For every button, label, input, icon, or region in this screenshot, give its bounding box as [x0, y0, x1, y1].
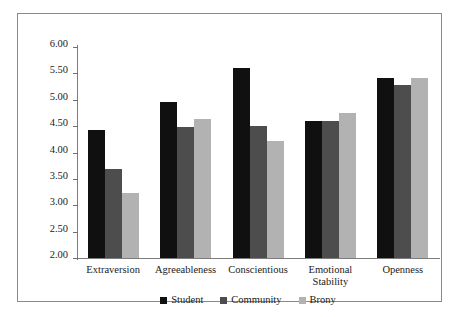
chart-legend: StudentCommunityBrony — [18, 295, 460, 306]
x-axis-category-label: Openness — [367, 264, 439, 276]
bar-brony — [339, 113, 356, 258]
x-axis-category-label: Agreeableness — [149, 264, 221, 276]
bar-community — [177, 127, 194, 258]
y-axis-tick-label: 4.00 — [50, 145, 68, 156]
bar-group — [233, 47, 284, 258]
y-axis-tick-label: 5.00 — [50, 92, 68, 103]
bar-community — [250, 126, 267, 258]
bar-group — [305, 47, 356, 258]
y-axis-tick-label: 3.00 — [50, 197, 68, 208]
plot-area — [77, 47, 439, 258]
bar-brony — [411, 78, 428, 258]
x-axis-line — [77, 258, 440, 259]
y-axis-tick-label: 4.50 — [50, 118, 68, 129]
legend-label: Brony — [310, 295, 336, 306]
bar-student — [305, 121, 322, 258]
legend-label: Student — [171, 295, 203, 306]
bar-brony — [194, 119, 211, 258]
bar-community — [105, 169, 122, 258]
bar-community — [394, 85, 411, 258]
bar-group — [377, 47, 428, 258]
x-axis-category-label: Extraversion — [77, 264, 149, 276]
legend-label: Community — [231, 295, 281, 306]
legend-swatch-icon — [160, 297, 167, 304]
bar-community — [322, 121, 339, 258]
legend-swatch-icon — [299, 297, 306, 304]
bar-brony — [267, 141, 284, 258]
y-axis-tick-label: 2.00 — [50, 250, 68, 261]
bar-student — [233, 68, 250, 258]
bar-brony — [122, 193, 139, 258]
legend-item: Student — [160, 295, 203, 306]
bar-student — [160, 102, 177, 258]
y-axis-tick-mark — [73, 258, 78, 259]
bar-student — [377, 78, 394, 258]
figure-frame: 6.005.505.004.504.003.503.002.502.00 Ext… — [17, 13, 442, 302]
y-axis-tick-label: 3.50 — [50, 171, 68, 182]
legend-swatch-icon — [220, 297, 227, 304]
legend-item: Brony — [299, 295, 336, 306]
bar-group — [160, 47, 211, 258]
x-axis-category-label: Conscientious — [222, 264, 294, 276]
y-axis-tick-label: 5.50 — [50, 65, 68, 76]
y-axis-tick-label: 2.50 — [50, 224, 68, 235]
bar-chart-figure: 6.005.505.004.504.003.503.002.502.00 Ext… — [0, 0, 460, 317]
x-axis-category-label: Emotional Stability — [294, 264, 366, 288]
bar-student — [88, 130, 105, 258]
bar-group — [88, 47, 139, 258]
legend-item: Community — [220, 295, 281, 306]
y-axis-tick-label: 6.00 — [50, 39, 68, 50]
